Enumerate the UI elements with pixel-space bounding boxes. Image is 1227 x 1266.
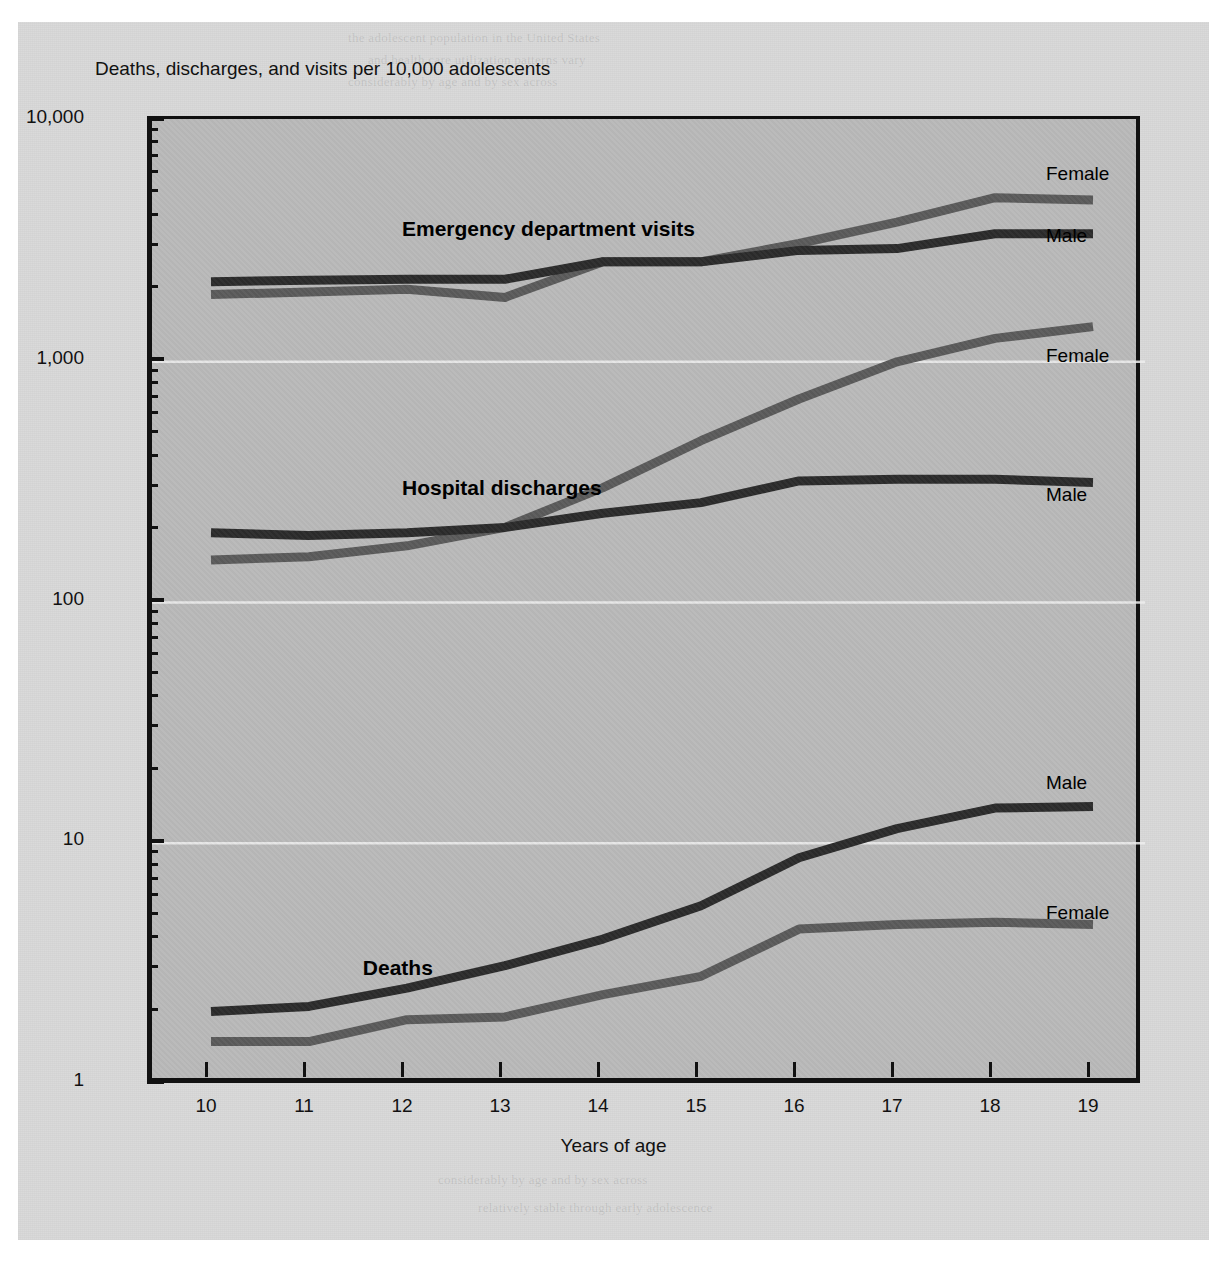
- group-label: Deaths: [363, 956, 433, 980]
- x-tick: [1087, 1062, 1090, 1077]
- x-tick-label: 11: [294, 1095, 314, 1117]
- y-minor-tick: [147, 652, 158, 655]
- y-major-tick: [147, 598, 164, 602]
- series-label-male: Male: [1046, 772, 1087, 794]
- y-minor-tick: [147, 454, 158, 457]
- y-minor-tick: [147, 189, 158, 192]
- x-tick-label: 10: [195, 1095, 216, 1117]
- y-major-tick: [147, 839, 164, 843]
- y-minor-tick: [147, 430, 158, 433]
- x-tick: [891, 1062, 894, 1077]
- chart-figure: Deaths, discharges, and visits per 10,00…: [0, 0, 1227, 1266]
- x-tick: [205, 1062, 208, 1077]
- y-tick-label: 100: [52, 588, 84, 610]
- x-tick: [401, 1062, 404, 1077]
- y-major-tick: [147, 1080, 164, 1084]
- y-minor-tick: [147, 285, 158, 288]
- y-minor-tick: [147, 484, 158, 487]
- y-minor-tick: [147, 694, 158, 697]
- y-minor-tick: [147, 1008, 158, 1011]
- y-minor-tick: [147, 610, 158, 613]
- y-major-tick: [147, 357, 164, 361]
- y-minor-tick: [147, 893, 158, 896]
- y-minor-tick: [147, 170, 158, 173]
- series-label-male: Male: [1046, 484, 1087, 506]
- y-minor-tick: [147, 863, 158, 866]
- y-tick-label: 10: [63, 828, 84, 850]
- y-minor-tick: [147, 243, 158, 246]
- series-label-female: Female: [1046, 163, 1109, 185]
- x-tick-label: 16: [783, 1095, 804, 1117]
- y-tick-label: 1: [73, 1069, 84, 1091]
- x-tick: [989, 1062, 992, 1077]
- y-minor-tick: [147, 935, 158, 938]
- x-tick-label: 17: [881, 1095, 902, 1117]
- group-label: Hospital discharges: [402, 476, 602, 500]
- y-minor-tick: [147, 369, 158, 372]
- x-tick: [303, 1062, 306, 1077]
- y-minor-tick: [147, 636, 158, 639]
- y-minor-tick: [147, 724, 158, 727]
- x-tick: [597, 1062, 600, 1077]
- series-label-male: Male: [1046, 225, 1087, 247]
- x-tick: [793, 1062, 796, 1077]
- x-tick-label: 14: [587, 1095, 608, 1117]
- x-tick-label: 12: [391, 1095, 412, 1117]
- y-minor-tick: [147, 411, 158, 414]
- scanned-page: the adolescent population in the United …: [0, 0, 1227, 1266]
- y-minor-tick: [147, 140, 158, 143]
- series-label-female: Female: [1046, 345, 1109, 367]
- series-label-female: Female: [1046, 902, 1109, 924]
- y-minor-tick: [147, 767, 158, 770]
- x-tick-label: 19: [1077, 1095, 1098, 1117]
- y-major-tick: [147, 117, 164, 121]
- y-minor-tick: [147, 671, 158, 674]
- group-label: Emergency department visits: [402, 217, 695, 241]
- x-axis-title: Years of age: [0, 1135, 1227, 1157]
- y-minor-tick: [147, 622, 158, 625]
- y-minor-tick: [147, 912, 158, 915]
- y-tick-label: 10,000: [26, 106, 84, 128]
- data-lines: [152, 119, 1145, 1086]
- y-minor-tick: [147, 128, 158, 131]
- y-minor-tick: [147, 381, 158, 384]
- x-tick-label: 18: [979, 1095, 1000, 1117]
- x-tick-label: 13: [489, 1095, 510, 1117]
- y-minor-tick: [147, 877, 158, 880]
- y-minor-tick: [147, 154, 158, 157]
- x-tick: [499, 1062, 502, 1077]
- y-minor-tick: [147, 395, 158, 398]
- y-minor-tick: [147, 965, 158, 968]
- x-tick: [695, 1062, 698, 1077]
- y-minor-tick: [147, 850, 158, 853]
- y-minor-tick: [147, 526, 158, 529]
- x-tick-label: 15: [685, 1095, 706, 1117]
- y-minor-tick: [147, 213, 158, 216]
- y-tick-label: 1,000: [36, 347, 84, 369]
- plot-area: [147, 116, 1140, 1083]
- chart-axis-title: Deaths, discharges, and visits per 10,00…: [95, 58, 550, 80]
